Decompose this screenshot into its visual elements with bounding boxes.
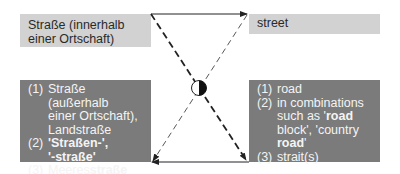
connector-diagram [0, 0, 400, 174]
half-filled-circle-icon [192, 81, 207, 96]
